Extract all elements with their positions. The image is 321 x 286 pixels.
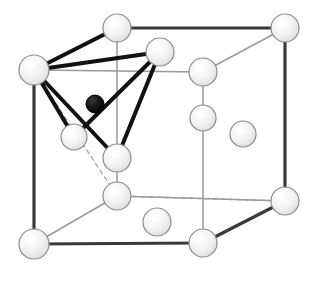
- atom-face-front: [103, 144, 131, 172]
- host-atom-sphere: [19, 229, 49, 259]
- host-atom-highlight: [276, 20, 286, 27]
- atom-corner-front-top-right: [189, 58, 217, 86]
- host-atom-highlight: [195, 110, 204, 117]
- host-atom-highlight: [235, 126, 244, 133]
- host-atom-highlight: [194, 64, 204, 71]
- atom-corner-back-top-right: [271, 14, 299, 42]
- atom-corner-front-bottom-right: [189, 229, 217, 257]
- interstitial-atom-layer: [86, 95, 104, 113]
- cell-edge-front-bottom-left-to-front-bottom-right: [34, 243, 203, 244]
- host-atom-highlight: [25, 61, 35, 69]
- atom-corner-back-top-left: [103, 14, 131, 42]
- atom-corner-back-bottom-left: [103, 182, 131, 210]
- host-atom-highlight: [108, 150, 118, 157]
- crystal-structure-canvas: [0, 0, 321, 286]
- host-atom-highlight: [276, 193, 286, 200]
- host-atom-sphere: [103, 14, 131, 42]
- host-atom-sphere: [61, 124, 87, 150]
- host-atom-highlight: [25, 235, 35, 243]
- host-atom-highlight: [194, 235, 204, 242]
- host-atom-sphere: [146, 38, 174, 66]
- crystal-structure-figure: [0, 0, 321, 286]
- host-atom-sphere: [189, 58, 217, 86]
- atom-interstitial: [86, 95, 104, 113]
- host-atom-sphere: [190, 105, 216, 131]
- host-atom-sphere: [271, 14, 299, 42]
- host-atom-sphere: [189, 229, 217, 257]
- host-atom-highlight: [148, 214, 158, 221]
- host-atom-sphere: [271, 187, 299, 215]
- atom-face-top: [146, 38, 174, 66]
- host-atom-highlight: [66, 129, 75, 136]
- host-atom-highlight: [108, 20, 118, 27]
- atom-face-back: [190, 105, 216, 131]
- host-atom-sphere: [103, 182, 131, 210]
- host-atom-sphere: [143, 208, 171, 236]
- atom-face-bottom: [143, 208, 171, 236]
- host-atom-highlight: [108, 188, 118, 195]
- atom-corner-back-bottom-right: [271, 187, 299, 215]
- host-atom-sphere: [19, 55, 49, 85]
- atom-face-right: [230, 121, 256, 147]
- host-atom-sphere: [103, 144, 131, 172]
- atom-corner-front-top-left: [19, 55, 49, 85]
- atom-face-left: [61, 124, 87, 150]
- atom-corner-front-bottom-left: [19, 229, 49, 259]
- host-atom-highlight: [151, 44, 161, 51]
- host-atom-sphere: [230, 121, 256, 147]
- interstitial-atom-sphere: [86, 95, 104, 113]
